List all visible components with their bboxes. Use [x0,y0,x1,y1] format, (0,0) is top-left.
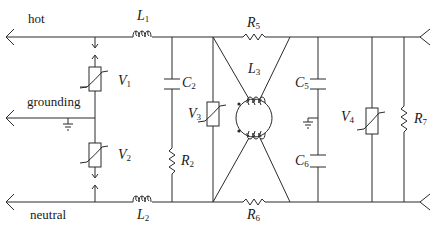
ground-symbol-left [63,118,73,130]
label-hot: hot [28,12,45,25]
label-C2-sub: 2 [191,81,196,91]
label-L1-letter: L [137,8,145,23]
label-R5-letter: R [247,15,256,30]
label-R2-letter: R [181,153,190,168]
label-R6: R6 [247,208,260,223]
grounding-line [6,110,95,130]
resistor-R7-branch [401,37,407,202]
label-V2-letter: V [118,147,127,162]
label-L1: L1 [137,9,149,24]
label-R5: R5 [247,16,260,31]
label-V3: V3 [188,107,201,122]
label-V4-letter: V [341,109,350,124]
label-L1-sub: 1 [145,14,150,24]
label-R2: R2 [181,154,194,169]
label-L3-letter: L [248,61,256,76]
resistor-R6 [243,199,267,205]
varistor-branch-left [80,37,108,202]
label-R6-sub: 6 [256,213,261,223]
label-C6: C6 [295,154,309,169]
label-V3-sub: 3 [197,112,202,122]
label-R2-sub: 2 [190,159,195,169]
label-L2-sub: 2 [145,213,150,223]
label-C6-sub: 6 [304,159,309,169]
label-C5: C5 [295,76,309,91]
neutral-line [6,194,430,210]
label-C2: C2 [182,76,196,91]
label-L3-sub: 3 [256,67,261,77]
ground-symbol-right [303,118,318,128]
label-grounding: grounding [27,95,80,108]
label-V4: V4 [341,110,354,125]
resistor-R5 [243,34,267,40]
c2-r2-branch [164,37,180,202]
label-C2-letter: C [182,75,191,90]
label-V2-sub: 2 [127,153,132,163]
circuit-diagram [0,0,435,230]
label-R7-letter: R [414,111,423,126]
label-V3-letter: V [188,106,197,121]
label-C5-letter: C [295,75,304,90]
label-R7: R7 [414,112,427,127]
label-L2: L2 [137,208,149,223]
label-R7-sub: 7 [423,117,428,127]
c5-c6-branch [303,37,326,202]
varistor-V4-branch [357,37,385,202]
label-C6-letter: C [295,153,304,168]
inductor-L1 [133,31,151,37]
label-V1-sub: 1 [127,79,132,89]
label-V2: V2 [118,148,131,163]
label-R6-letter: R [247,207,256,222]
label-V4-sub: 4 [350,115,355,125]
hot-line [6,29,430,45]
inductor-L2 [133,196,151,202]
label-L2-letter: L [137,207,145,222]
choke-L3 [236,97,272,139]
varistor-V3-branch [198,37,226,202]
label-V1: V1 [118,74,131,89]
label-C5-sub: 5 [304,81,309,91]
label-neutral: neutral [30,208,66,221]
label-L3: L3 [248,62,260,77]
label-V1-letter: V [118,73,127,88]
label-R5-sub: 5 [256,21,261,31]
